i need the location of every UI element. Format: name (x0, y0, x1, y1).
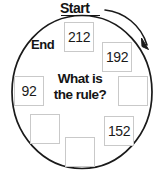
cell-bottom[interactable] (65, 137, 95, 167)
cell-lower-right[interactable]: 152 (104, 116, 134, 146)
cell-lower-left[interactable] (30, 114, 60, 144)
diagram-overlay: Start End What is the rule? 212 192 152 … (0, 0, 160, 177)
cell-left[interactable]: 92 (14, 76, 44, 106)
end-label: End (31, 38, 54, 51)
cell-right[interactable] (118, 76, 148, 106)
start-label: Start (60, 1, 89, 15)
cell-top[interactable]: 212 (64, 22, 94, 52)
question-line-2: the rule? (44, 87, 116, 103)
cell-upper-right[interactable]: 192 (102, 42, 132, 72)
question-line-1: What is (44, 71, 116, 87)
question-prompt: What is the rule? (44, 71, 116, 104)
worksheet-diagram: Start End What is the rule? 212 192 152 … (0, 0, 160, 177)
